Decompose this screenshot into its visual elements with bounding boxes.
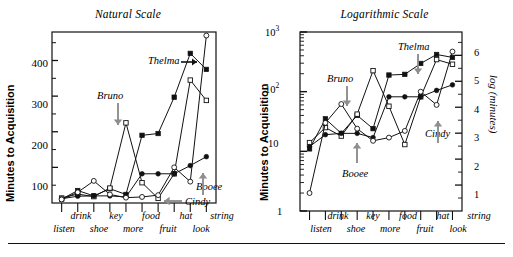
data-point [339, 131, 344, 136]
data-point [371, 138, 376, 143]
two-panel-figure: Natural Scale Minutes to Acquisition 100… [0, 0, 513, 257]
arrow-thelma-log-head [414, 68, 422, 74]
data-point [402, 128, 407, 133]
data-point [403, 142, 407, 146]
data-point [450, 62, 454, 66]
data-point [403, 72, 407, 76]
footer-divider [8, 243, 505, 244]
data-point [434, 57, 438, 61]
data-point [323, 120, 328, 125]
data-point [450, 83, 455, 88]
data-point [450, 49, 455, 54]
arrow-booee-log-head [353, 143, 361, 149]
data-point [418, 61, 422, 65]
data-point [387, 94, 392, 99]
data-point [339, 102, 344, 107]
data-point [355, 112, 359, 116]
data-point [307, 144, 312, 149]
data-point [386, 135, 391, 140]
data-point [323, 132, 328, 137]
data-point [307, 191, 312, 196]
arrow-cindy-log-head [434, 121, 442, 127]
data-point [434, 88, 439, 93]
data-point [402, 94, 407, 99]
data-point [434, 52, 438, 56]
data-point [418, 89, 423, 94]
data-point [371, 126, 375, 130]
data-point [355, 131, 360, 136]
plot-area-log [0, 0, 513, 257]
data-point [434, 102, 439, 107]
data-point [387, 73, 391, 77]
data-point [371, 68, 375, 72]
data-point [387, 104, 391, 108]
data-point [355, 126, 360, 131]
